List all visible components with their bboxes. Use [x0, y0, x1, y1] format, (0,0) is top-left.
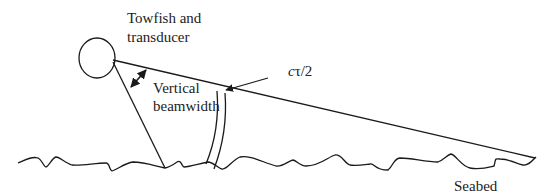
seabed-label: Seabed — [454, 177, 497, 195]
towfish-icon — [79, 38, 115, 78]
beamwidth-arrow-icon — [131, 70, 146, 87]
pulse-length-label: cτ/2 — [288, 62, 312, 80]
pulse-length-c: c — [288, 63, 295, 79]
pulse-pointer-arrow-icon — [226, 78, 268, 90]
beamwidth-label-line1: Vertical — [153, 79, 200, 97]
beamwidth-label-line2: beamwidth — [153, 97, 220, 115]
pulse-length-rest: τ/2 — [295, 63, 313, 79]
seabed-line — [18, 154, 536, 171]
towfish-label-line2: transducer — [127, 28, 189, 46]
sonar-diagram: Towfish and transducer Vertical beamwidt… — [0, 0, 554, 196]
diagram-canvas — [0, 0, 554, 196]
towfish-label-line1: Towfish and — [127, 9, 201, 27]
